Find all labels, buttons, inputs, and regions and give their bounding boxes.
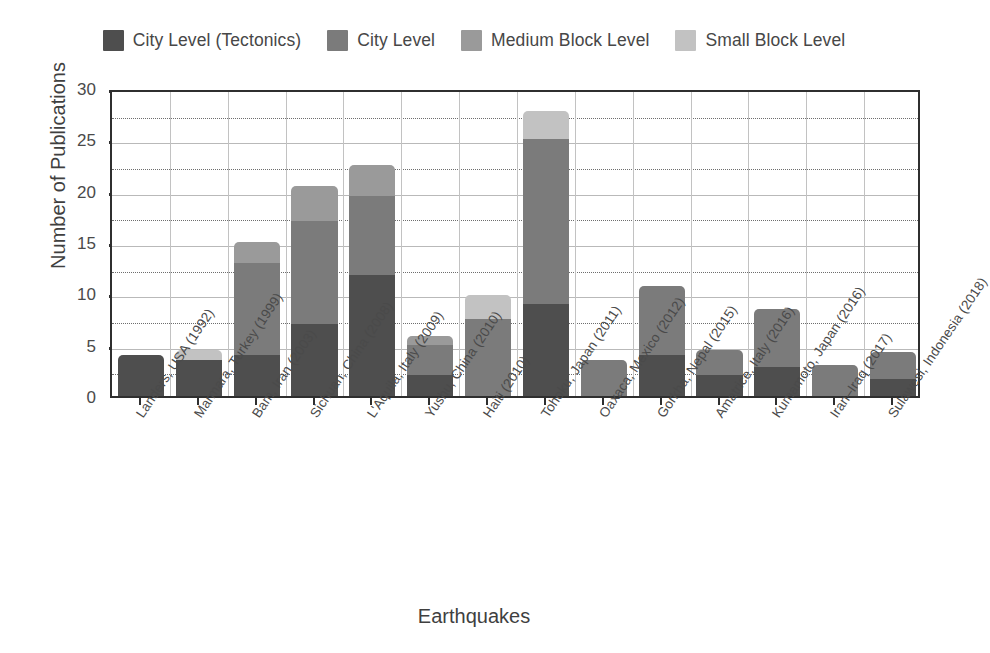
legend-item-label: City Level (Tectonics) xyxy=(133,30,302,51)
legend-swatch-icon xyxy=(675,30,696,51)
legend-item: City Level xyxy=(327,30,435,51)
y-axis-title: Number of Publications xyxy=(47,16,70,316)
legend-item: Small Block Level xyxy=(675,30,845,51)
legend-item-label: City Level xyxy=(357,30,435,51)
bar-segment[interactable] xyxy=(523,111,569,140)
x-axis-title: Earthquakes xyxy=(0,605,948,628)
legend-item: Medium Block Level xyxy=(461,30,649,51)
chart-legend: City Level (Tectonics)City LevelMedium B… xyxy=(0,30,948,51)
bar-group[interactable] xyxy=(523,111,569,396)
legend-item: City Level (Tectonics) xyxy=(103,30,302,51)
bar-segment[interactable] xyxy=(523,139,569,303)
bar-segment[interactable] xyxy=(291,186,337,222)
legend-swatch-icon xyxy=(103,30,124,51)
y-axis-tick-label: 25 xyxy=(58,131,96,151)
y-axis-tick-label: 20 xyxy=(58,183,96,203)
bar-segment[interactable] xyxy=(291,221,337,324)
legend-item-label: Medium Block Level xyxy=(491,30,649,51)
bar-segment[interactable] xyxy=(349,165,395,196)
y-axis-tick-label: 0 xyxy=(58,388,96,408)
bar-segment[interactable] xyxy=(234,242,280,263)
y-axis-tick-label: 5 xyxy=(58,337,96,357)
legend-item-label: Small Block Level xyxy=(705,30,845,51)
y-axis-tick-label: 15 xyxy=(58,234,96,254)
bar-segment[interactable] xyxy=(349,196,395,275)
legend-swatch-icon xyxy=(327,30,348,51)
y-axis-tick-label: 30 xyxy=(58,80,96,100)
legend-swatch-icon xyxy=(461,30,482,51)
y-axis-tick-label: 10 xyxy=(58,285,96,305)
